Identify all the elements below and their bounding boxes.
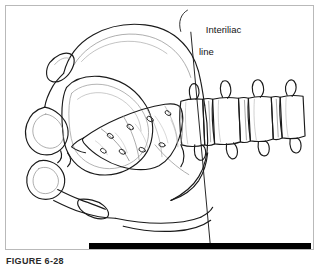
figure-caption: FIGURE 6-28 [6,256,64,266]
vertebral-body-3 [248,97,273,142]
transverse-process-lower-1 [194,145,205,160]
vertebral-body-4-shade [286,97,288,137]
transverse-process-lower-4 [290,138,301,153]
sacrum-outline [82,104,182,170]
sacral-foramen [164,110,171,117]
iliac-crest-inner-line [74,34,191,77]
iliac-crest-outline [64,24,205,105]
sacral-foramen [158,142,165,148]
acetabular-rim-outer [62,76,153,175]
bone-outlines [25,24,305,231]
vertebral-body-3-shade [254,99,256,140]
pubic-ramus [58,151,62,163]
transverse-process-upper-3 [252,80,263,97]
ischial-tuberosity-lower [54,200,116,218]
facet-joint-1 [209,101,211,142]
sacral-lateral-ridge-2 [165,106,178,147]
transverse-process-upper-2 [220,81,230,98]
interiliac-label-line-2: line [190,46,260,57]
sacral-foramen [118,148,126,155]
inferior-pelvic-border [115,217,200,223]
sacral-foramen [100,147,107,154]
obturator-foramen-upper-inner [33,114,64,148]
ischial-ramus [68,153,71,167]
obturator-foramen-lower-inner [33,167,58,193]
transverse-process-upper-1 [189,84,199,100]
illustration-frame: Interiliac line [5,5,314,250]
transverse-process-lower-2 [226,143,237,159]
vertebral-body-2-shade [218,100,220,142]
sacral-apex-point [72,138,86,153]
facet-joint-3 [276,99,278,137]
interiliac-label-line-1: Interiliac [206,24,241,35]
vertebral-body-4 [280,96,305,139]
transverse-process-lower-3 [258,141,269,156]
vertebral-body-1-shade [185,102,187,144]
transverse-process-upper-4 [285,80,296,96]
figure-container: Interiliac line FIGURE 6-28 [0,0,325,266]
facet-joint-2 [244,100,246,140]
sacral-foramen [126,123,134,131]
scale-bar [89,243,311,250]
interiliac-line-label: Interiliac line [190,13,260,79]
interiliac-label-leader [180,10,188,32]
sacral-ala-edge [181,145,184,167]
vertebral-body-2 [212,98,240,145]
sacral-promontory-edge [101,129,129,161]
pelvis-lumbar-spine-illustration [6,6,313,249]
